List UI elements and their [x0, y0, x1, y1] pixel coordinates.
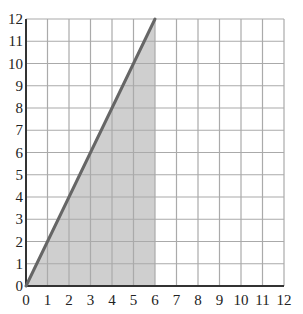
x-tick-label: 10: [234, 292, 249, 308]
x-tick-label: 3: [87, 292, 95, 308]
y-tick-label: 6: [16, 145, 24, 161]
x-tick-label: 9: [216, 292, 224, 308]
y-tick-label: 11: [9, 33, 23, 49]
x-tick-label: 2: [65, 292, 73, 308]
x-tick-label: 0: [22, 292, 30, 308]
y-tick-label: 8: [16, 100, 24, 116]
y-tick-label: 2: [16, 234, 24, 250]
y-tick-label: 9: [16, 78, 24, 94]
x-tick-label: 11: [255, 292, 269, 308]
y-tick-label: 4: [16, 189, 24, 205]
y-tick-label: 1: [16, 256, 24, 272]
x-tick-label: 6: [151, 292, 159, 308]
chart: 0123456789101112 0123456789101112: [0, 0, 303, 314]
x-tick-label: 1: [44, 292, 52, 308]
x-tick-label: 7: [173, 292, 181, 308]
y-tick-label: 12: [8, 11, 23, 27]
y-tick-label: 0: [16, 278, 24, 294]
y-axis-ticks: 0123456789101112: [8, 11, 24, 294]
x-tick-label: 5: [130, 292, 138, 308]
x-tick-label: 8: [194, 292, 202, 308]
x-axis-ticks: 0123456789101112: [22, 292, 291, 308]
x-tick-label: 12: [277, 292, 292, 308]
y-tick-label: 3: [16, 211, 24, 227]
y-tick-label: 7: [16, 122, 24, 138]
y-tick-label: 5: [16, 167, 24, 183]
x-tick-label: 4: [108, 292, 116, 308]
y-tick-label: 10: [8, 56, 23, 72]
